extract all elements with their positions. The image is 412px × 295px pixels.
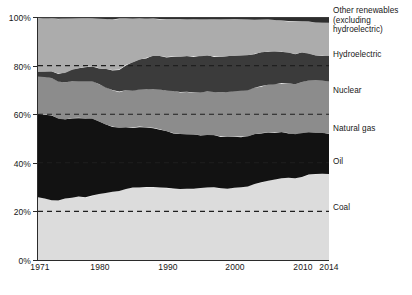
x-tick-label-1990: 1990	[158, 262, 177, 272]
y-tick-label-100: 100%	[9, 13, 31, 23]
legend-item-hydroelectric: Hydroelectric	[333, 50, 411, 60]
y-tick-mark-20	[33, 211, 37, 212]
y-tick-label-40: 40%	[14, 159, 31, 169]
plot-area	[37, 17, 329, 261]
legend-item-nuclear: Nuclear	[333, 86, 411, 96]
x-tick-label-1980: 1980	[90, 262, 109, 272]
x-tick-label-2010: 2010	[293, 262, 312, 272]
y-tick-mark-80	[33, 66, 37, 67]
legend-item-other-renewables: Other renewables (excluding hydroelectri…	[333, 6, 411, 35]
plot-svg	[38, 17, 329, 260]
legend-item-natural-gas: Natural gas	[333, 124, 411, 134]
y-axis: 100% 80% 60% 40% 20% 0%	[0, 0, 34, 295]
x-tick-label-2000: 2000	[225, 262, 244, 272]
stacked-area-chart: 100% 80% 60% 40% 20% 0% 1971 1980 1990 2…	[0, 0, 412, 295]
y-tick-label-80: 80%	[14, 62, 31, 72]
y-tick-mark-0	[33, 260, 37, 261]
y-tick-label-60: 60%	[14, 110, 31, 120]
legend-item-oil: Oil	[333, 157, 411, 167]
y-tick-label-20: 20%	[14, 207, 31, 217]
legend: Other renewables (excluding hydroelectri…	[333, 0, 412, 295]
area-series-group	[38, 17, 329, 260]
y-tick-mark-40	[33, 163, 37, 164]
y-tick-mark-100	[33, 17, 37, 18]
y-tick-mark-60	[33, 114, 37, 115]
x-tick-label-1971: 1971	[30, 262, 49, 272]
legend-item-coal: Coal	[333, 203, 411, 213]
